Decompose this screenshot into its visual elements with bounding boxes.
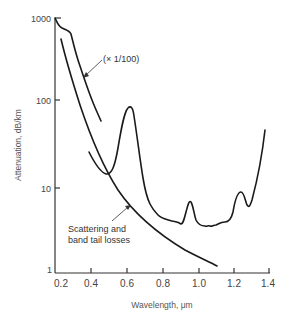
scatter-annotation-arrow	[112, 205, 131, 221]
x-tick-label-0.6: 0.6	[120, 278, 134, 289]
y-tick-label-100: 100	[36, 96, 51, 106]
x-tick-label-1.0: 1.0	[192, 278, 206, 289]
x-tick-label-1.4: 1.4	[261, 278, 275, 289]
attenuation-chart: 1000 100 10 1 0.2 0.4 0.6 0.8 1.0 1.2 1.…	[0, 0, 288, 319]
scatter-annotation-line1: Scattering and	[68, 224, 126, 234]
attenuation-curve	[89, 107, 265, 226]
x-tick-label-0.2: 0.2	[54, 278, 68, 289]
scatter-annotation-line2: band tail losses	[68, 235, 131, 245]
x-tick-label-0.4: 0.4	[84, 278, 98, 289]
x-tick-label-1.2: 1.2	[227, 278, 241, 289]
y-tick-label-1000: 1000	[31, 14, 51, 24]
attenuation-curve-scaled	[55, 18, 101, 121]
x-tick-label-0.8: 0.8	[156, 278, 170, 289]
y-tick-label-1: 1	[47, 265, 52, 275]
y-axis-title: Attenuation, dB/km	[13, 109, 23, 181]
y-tick-label-10: 10	[41, 184, 51, 194]
x-axis-title: Wavelength, μm	[131, 300, 192, 310]
scale-annotation: (× 1/100)	[103, 54, 139, 64]
scale-annotation-arrow	[83, 60, 102, 78]
